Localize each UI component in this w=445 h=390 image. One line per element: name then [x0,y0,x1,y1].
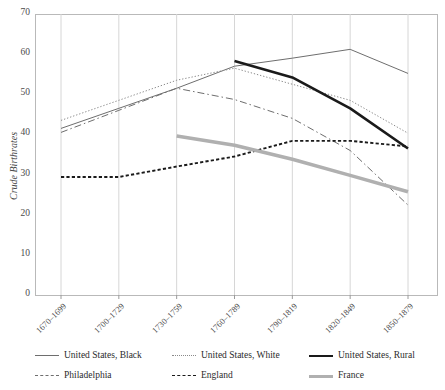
legend-label: England [201,370,233,380]
legend-item[interactable]: England [172,370,309,380]
legend-item[interactable]: United States, White [172,350,309,360]
legend-label: United States, White [201,350,280,360]
legend-swatch-icon [309,370,333,380]
legend-label: France [338,370,364,380]
legend-swatch-icon [35,370,59,380]
legend-item[interactable]: France [309,370,445,380]
series-line-2 [235,61,409,149]
chart-legend: United States, BlackUnited States, White… [35,345,445,385]
legend-item[interactable]: United States, Black [35,350,172,360]
legend-label: United States, Black [64,350,142,360]
legend-item[interactable]: United States, Rural [309,350,445,360]
legend-swatch-icon [172,350,196,360]
legend-label: Philadelphia [64,370,112,380]
legend-item[interactable]: Philadelphia [35,370,172,380]
plot-area [0,0,445,390]
legend-swatch-icon [309,350,333,360]
plot-frame [36,15,438,296]
legend-label: United States, Rural [338,350,415,360]
legend-swatch-icon [35,350,59,360]
chart-container: Crude Birthrates 010203040506070 1670–16… [0,0,445,390]
legend-swatch-icon [172,370,196,380]
